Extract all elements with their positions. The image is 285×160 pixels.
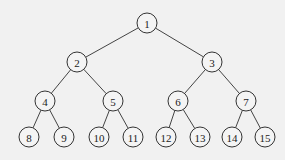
edge-1-3 [156, 28, 204, 57]
node-label: 1 [144, 18, 150, 30]
edge-7-14 [236, 110, 243, 127]
edge-2-4 [51, 70, 70, 94]
tree-edges [33, 28, 260, 129]
edge-6-12 [169, 110, 175, 127]
node-label: 3 [209, 57, 215, 69]
edge-4-9 [50, 110, 60, 128]
edge-5-11 [118, 110, 128, 129]
tree-node-6: 6 [168, 91, 188, 111]
node-label: 8 [26, 132, 32, 144]
node-label: 5 [110, 96, 116, 108]
tree-node-5: 5 [103, 91, 123, 111]
edge-6-13 [183, 110, 195, 129]
tree-node-9: 9 [54, 127, 74, 147]
node-label: 14 [227, 132, 239, 144]
tree-node-12: 12 [156, 127, 176, 147]
edge-5-10 [103, 110, 110, 127]
edge-3-7 [219, 70, 240, 94]
edge-1-2 [86, 28, 139, 57]
node-label: 7 [243, 96, 249, 108]
edge-2-5 [84, 69, 106, 93]
node-label: 10 [94, 132, 106, 144]
edge-7-15 [251, 110, 261, 128]
tree-node-15: 15 [255, 127, 275, 147]
tree-node-1: 1 [137, 13, 157, 33]
node-label: 6 [175, 96, 181, 108]
tree-node-14: 14 [222, 127, 242, 147]
edge-3-6 [185, 70, 206, 94]
node-label: 11 [128, 132, 139, 144]
tree-node-3: 3 [202, 52, 222, 72]
edge-4-8 [33, 110, 41, 128]
node-label: 4 [42, 96, 48, 108]
tree-node-8: 8 [19, 127, 39, 147]
tree-node-10: 10 [89, 127, 109, 147]
node-label: 9 [61, 132, 67, 144]
node-label: 12 [161, 132, 172, 144]
binary-tree-diagram: 123456789101112131415 [0, 0, 285, 160]
tree-node-4: 4 [35, 91, 55, 111]
tree-node-13: 13 [190, 127, 210, 147]
tree-node-11: 11 [123, 127, 143, 147]
node-label: 13 [195, 132, 207, 144]
tree-node-2: 2 [67, 52, 87, 72]
tree-node-7: 7 [236, 91, 256, 111]
node-label: 15 [260, 132, 272, 144]
node-label: 2 [74, 57, 80, 69]
tree-nodes: 123456789101112131415 [19, 13, 275, 147]
